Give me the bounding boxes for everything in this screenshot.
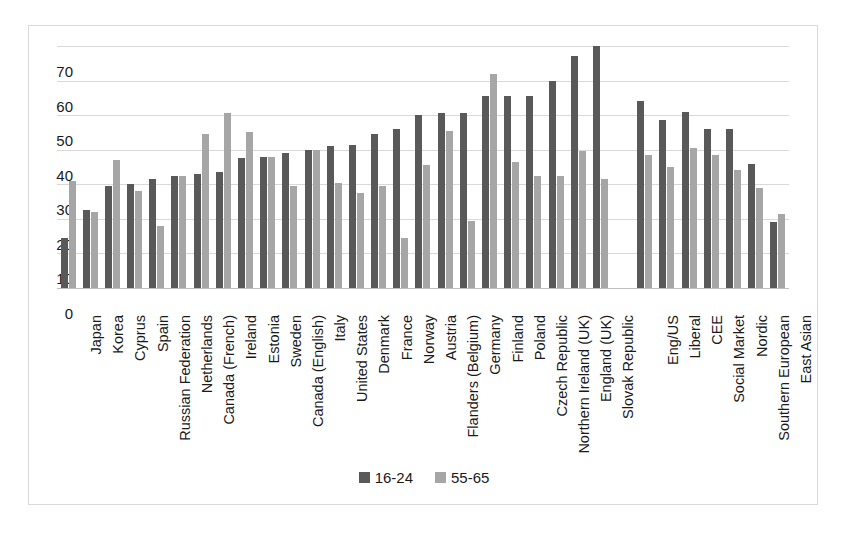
bar-series-16-24 [149,179,156,288]
x-axis-line [57,288,789,289]
x-axis-tick-label: Germany [488,315,503,375]
bar-series-layer [57,46,789,288]
legend-label: 55-65 [451,469,489,486]
x-axis-tick-label: Korea [111,315,126,354]
x-axis-tick-label: Norway [422,315,437,364]
bar-series-55-65 [179,176,186,288]
bar-series-16-24 [526,96,533,288]
legend-item[interactable]: 55-65 [435,469,489,486]
bar-series-55-65 [357,193,364,288]
x-axis-tick-label: Estonia [267,315,282,363]
bar-series-16-24 [371,134,378,288]
bar-series-55-65 [734,170,741,288]
chart-legend: 16-2455-65 [29,469,819,486]
x-axis-tick-label: Spain [156,315,171,352]
x-axis-tick-label: Nordic [755,315,770,357]
bar-series-16-24 [682,112,689,288]
bar-series-55-65 [113,160,120,288]
bar-group [234,46,256,288]
bar-series-16-24 [238,158,245,288]
bar-series-16-24 [282,153,289,288]
bar-group [168,46,190,288]
bar-group [57,46,79,288]
bar-series-55-65 [268,157,275,288]
plot-area [57,46,789,288]
x-axis-tick-label: Liberal [688,315,703,359]
bar-series-16-24 [659,120,666,288]
x-axis-tick-label: Social Market [732,315,747,403]
bar-series-55-65 [557,176,564,288]
bar-series-55-65 [313,150,320,288]
x-axis-tick-label: Italy [333,315,348,342]
bar-series-16-24 [105,186,112,288]
x-axis-tick-label: Finland [511,315,526,363]
bar-series-55-65 [579,151,586,288]
bar-series-55-65 [91,212,98,288]
bar-series-55-65 [667,167,674,288]
bar-series-16-24 [327,146,334,288]
legend-swatch-icon [359,472,370,483]
bar-group [700,46,722,288]
x-axis-tick-label: Czech Republic [555,315,570,417]
x-axis-category-labels: JapanKoreaCyprusSpainRussian FederationN… [85,315,817,465]
bar-series-55-65 [778,214,785,288]
bar-group [390,46,412,288]
x-axis-tick-label: Southern European [777,315,792,441]
x-axis-tick-label: Eng/US [666,315,681,365]
bar-series-55-65 [423,165,430,288]
bar-series-16-24 [393,129,400,288]
bar-group [745,46,767,288]
bar-series-16-24 [171,176,178,288]
bar-series-16-24 [127,184,134,288]
bar-series-16-24 [260,157,267,288]
x-axis-tick-label: Russian Federation [178,315,193,441]
bar-group [656,46,678,288]
bar-series-55-65 [224,113,231,288]
bar-series-55-65 [490,74,497,288]
bar-series-16-24 [305,150,312,288]
bar-group [678,46,700,288]
bar-series-16-24 [415,115,422,288]
bar-group [612,46,634,288]
bar-group [456,46,478,288]
x-axis-tick-label: Ireland [244,315,259,359]
bar-series-16-24 [593,46,600,288]
bar-series-16-24 [504,96,511,288]
x-axis-tick-label: United States [355,315,370,402]
bar-series-55-65 [69,181,76,288]
x-axis-tick-label: Canada (English) [311,315,326,427]
legend-label: 16-24 [375,469,413,486]
bar-series-55-65 [601,179,608,288]
bar-group [567,46,589,288]
bar-series-16-24 [549,81,556,288]
bar-group [212,46,234,288]
bar-series-55-65 [534,176,541,288]
bar-series-55-65 [712,155,719,288]
bar-group [412,46,434,288]
bar-series-16-24 [726,129,733,288]
x-axis-tick-label: East Asian [799,315,814,384]
bar-group [434,46,456,288]
bar-group [124,46,146,288]
bar-group [722,46,744,288]
x-axis-tick-label: Slovak Republic [621,315,636,419]
bar-series-16-24 [770,222,777,288]
x-axis-tick-label: Denmark [377,315,392,374]
legend-item[interactable]: 16-24 [359,469,413,486]
x-axis-tick-label: CEE [710,315,725,345]
x-axis-tick-label: France [400,315,415,360]
bar-group [279,46,301,288]
bar-series-16-24 [216,172,223,288]
bar-series-55-65 [690,148,697,288]
chart-container: 010203040506070 JapanKoreaCyprusSpainRus… [28,25,818,505]
bar-series-55-65 [335,183,342,288]
bar-series-16-24 [61,238,68,288]
bar-series-55-65 [468,221,475,288]
bar-series-55-65 [756,188,763,288]
x-axis-tick-label: Poland [533,315,548,360]
bar-series-55-65 [202,134,209,288]
x-axis-tick-label: Northern Ireland (UK) [577,315,592,454]
x-axis-tick-label: Sweden [289,315,304,367]
x-axis-tick-label: Austria [444,315,459,360]
legend-swatch-icon [435,472,446,483]
